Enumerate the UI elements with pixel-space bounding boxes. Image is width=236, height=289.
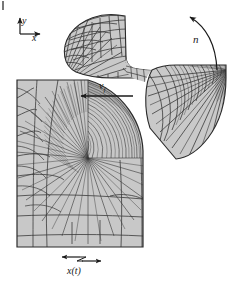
axis-label-y: y — [22, 16, 26, 26]
feed-velocity-subscript: f — [103, 86, 105, 94]
feed-velocity-label: vf — [99, 81, 105, 94]
position-double-arrow — [62, 257, 101, 261]
fem-cutting-figure: y x n vf x(t) — [0, 0, 236, 289]
annotation-layer — [0, 0, 236, 289]
axis-label-x: x — [32, 33, 36, 43]
position-label-xt: x(t) — [67, 266, 81, 276]
rotation-label-n: n — [193, 34, 199, 45]
